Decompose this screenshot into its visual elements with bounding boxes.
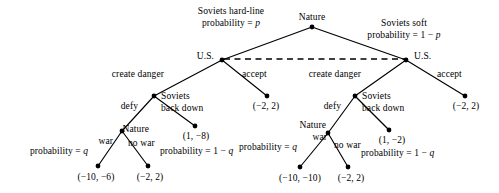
action-label-left-back-down-2: back down: [161, 103, 203, 115]
action-label-right-back-down-2: back down: [362, 103, 404, 115]
terminal-node-right-accept: [463, 94, 468, 99]
action-label-left-war: war: [98, 136, 113, 147]
node-label-us-left: U.S.: [197, 51, 214, 62]
node-label-nature-left: Nature: [123, 124, 149, 135]
chance-label-soviets-soft: Soviets soft probability = 1 − p: [367, 18, 440, 41]
payoff-right-no-war: (−2, 2): [338, 173, 365, 184]
chance-label-soviets-hard-line: Soviets hard-line probability = p: [198, 6, 264, 29]
node-label-us-right: U.S.: [414, 51, 431, 62]
node-label-root-nature: Nature: [299, 12, 325, 23]
terminal-node-left-no-war: [146, 164, 151, 169]
action-label-left-no-war-probability: probability = 1 − q: [160, 146, 233, 157]
action-label-left-create-danger: create danger: [112, 69, 164, 80]
node-us-left: [220, 58, 225, 63]
action-label-left-defy: defy: [121, 101, 138, 112]
action-label-left-accept: accept: [242, 69, 267, 80]
chance-label-hard-line-2: probability = p: [198, 18, 264, 30]
terminal-node-left-back-down: [193, 124, 198, 129]
terminal-node-right-no-war: [346, 165, 351, 170]
payoff-left-war: (−10, −6): [78, 172, 115, 183]
action-label-right-war-probability: probability = q: [239, 142, 297, 153]
action-label-right-back-down: Soviets back down: [362, 91, 404, 114]
node-soviets-left: [152, 94, 157, 99]
node-root-nature: [310, 25, 315, 30]
action-label-left-back-down: Soviets back down: [161, 91, 203, 114]
action-label-left-no-war: no war: [128, 138, 155, 149]
payoff-right-war: (−10, −10): [279, 173, 321, 184]
action-label-right-back-down-1: Soviets: [362, 91, 404, 103]
action-label-right-war: war: [312, 132, 327, 143]
node-label-nature-right: Nature: [300, 120, 326, 131]
payoff-left-no-war: (−2, 2): [137, 172, 164, 183]
action-label-left-back-down-1: Soviets: [161, 91, 203, 103]
action-label-right-no-war: no war: [334, 140, 361, 151]
edge-root-to-us-left: [222, 27, 312, 60]
terminal-node-right-back-down: [387, 128, 392, 133]
action-label-right-no-war-probability: probability = 1 − q: [361, 148, 434, 159]
action-label-right-accept: accept: [437, 69, 462, 80]
payoff-right-accept: (−2, 2): [453, 101, 480, 112]
chance-label-soft-1: Soviets soft: [367, 18, 440, 30]
payoff-left-accept: (−2, 2): [253, 101, 280, 112]
terminal-node-left-accept: [265, 94, 270, 99]
payoff-right-back-down: (1, −2): [379, 135, 406, 146]
action-label-left-war-probability: probability = q: [30, 146, 88, 157]
terminal-node-left-war: [96, 164, 101, 169]
node-us-right: [404, 58, 409, 63]
game-tree-diagram: Nature U.S. U.S. Nature Nature Soviets h…: [0, 0, 499, 193]
terminal-node-right-war: [298, 165, 303, 170]
chance-label-soft-2: probability = 1 − p: [367, 30, 440, 42]
action-label-right-create-danger: create danger: [309, 69, 361, 80]
action-label-right-defy: defy: [324, 101, 341, 112]
node-soviets-right: [353, 94, 358, 99]
chance-label-hard-line-1: Soviets hard-line: [198, 6, 264, 18]
payoff-left-back-down: (1, −8): [183, 131, 210, 142]
